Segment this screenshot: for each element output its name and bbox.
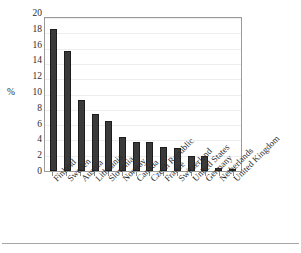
x-axis-label-slot: Sweden: [60, 176, 74, 248]
bar-slot: [116, 18, 130, 171]
y-axis-tick-label: 18: [33, 25, 43, 35]
y-axis-tick-label: 2: [37, 151, 42, 161]
x-axis-category-labels: FinlandSwedenAustriaLithuaniaSloveniaNor…: [44, 176, 242, 248]
x-axis-label-slot: Canada: [129, 176, 143, 248]
x-axis-label-slot: Netherlands: [212, 176, 226, 248]
y-axis-tick-label: 0: [37, 167, 42, 177]
bar[interactable]: [64, 51, 71, 171]
x-axis-label-slot: Switzerland: [171, 176, 185, 248]
bar-slot: [74, 18, 88, 171]
x-axis-label-slot: Finland: [46, 176, 60, 248]
x-axis-label-slot: Lithuania: [88, 176, 102, 248]
bar-slot: [102, 18, 116, 171]
x-axis-label-slot: United States: [185, 176, 199, 248]
bar-slot: [47, 18, 61, 171]
x-axis-label-slot: United Kingdom: [226, 176, 240, 248]
bars-layer: [45, 18, 241, 171]
x-axis-label-slot: Germany: [198, 176, 212, 248]
bar-slot: [143, 18, 157, 171]
bar-slot: [61, 18, 75, 171]
y-axis-tick-label: 20: [33, 9, 43, 19]
y-axis-tick-label: 10: [33, 88, 43, 98]
x-axis-label-slot: Czech Republic: [143, 176, 157, 248]
y-axis-tick-label: 14: [33, 57, 43, 67]
y-axis-tick-label: 8: [37, 104, 42, 114]
y-axis-tick-labels: 20181614121086420: [20, 14, 42, 172]
y-axis-tick-label: 6: [37, 120, 42, 130]
y-axis-title: %: [7, 88, 15, 98]
bar-slot: [157, 18, 171, 171]
bar-slot: [88, 18, 102, 171]
x-axis-label-slot: France: [157, 176, 171, 248]
plot-area: [44, 17, 242, 172]
x-axis-label-slot: Austria: [74, 176, 88, 248]
x-axis-label-slot: Slovenia: [101, 176, 115, 248]
bar-chart-figure: % 20181614121086420 FinlandSwedenAustria…: [0, 0, 301, 253]
y-axis-tick-label: 16: [33, 41, 43, 51]
footer-divider: [2, 243, 299, 244]
bar-slot: [129, 18, 143, 171]
y-axis-tick-label: 4: [37, 136, 42, 146]
y-axis-tick-label: 12: [33, 72, 43, 82]
bar[interactable]: [50, 29, 57, 171]
x-axis-label-slot: Norway: [115, 176, 129, 248]
